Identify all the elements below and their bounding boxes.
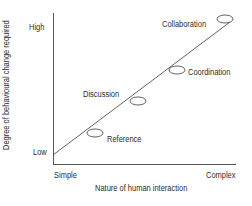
diagram-canvas: Degree of behavioural change required Hi…: [0, 0, 252, 206]
y-axis-high-label: High: [29, 23, 44, 32]
x-axis-complex-label: Complex: [206, 171, 236, 180]
stage-marker-coordination: [169, 66, 185, 74]
stage-marker-reference: [87, 129, 103, 137]
stage-label-discussion: Discussion: [83, 90, 119, 99]
stage-label-collaboration: Collaboration: [162, 20, 206, 29]
x-axis-title: Nature of human interaction: [95, 184, 187, 193]
stage-label-reference: Reference: [107, 135, 142, 144]
y-axis-title: Degree of behavioural change required: [2, 20, 11, 150]
stage-label-coordination: Coordination: [188, 68, 230, 77]
stage-marker-collaboration: [217, 15, 233, 23]
y-axis-low-label: Low: [33, 148, 47, 157]
x-axis-simple-label: Simple: [54, 171, 77, 180]
stage-marker-discussion: [130, 97, 146, 105]
